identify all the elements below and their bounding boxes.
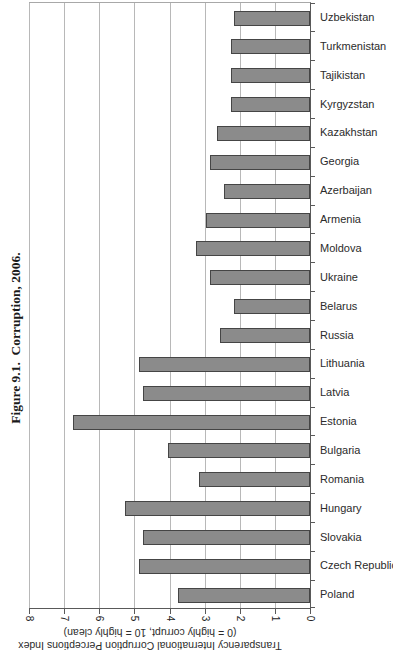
bar-georgia xyxy=(210,155,310,170)
value-tick-label-3: 3 xyxy=(199,613,210,625)
category-label-hungary: Hungary xyxy=(320,501,362,515)
category-axis-tick xyxy=(311,320,315,321)
category-label-turkmenistan: Turkmenistan xyxy=(320,39,386,53)
category-label-moldova: Moldova xyxy=(320,241,362,255)
gridline-4 xyxy=(170,3,171,609)
category-axis-tick xyxy=(311,89,315,90)
value-tick-label-4: 4 xyxy=(164,613,175,625)
bar-moldova xyxy=(196,241,310,256)
category-label-romania: Romania xyxy=(320,472,364,486)
bar-poland xyxy=(178,588,310,603)
bar-ukraine xyxy=(210,270,310,285)
bar-belarus xyxy=(234,299,310,314)
value-tick-label-8: 8 xyxy=(24,613,35,625)
bar-armenia xyxy=(206,213,310,228)
figure-page: Figure 9.1. Corruption, 2006. Transparen… xyxy=(0,0,393,659)
category-label-azerbaijan: Azerbaijan xyxy=(320,183,372,197)
category-label-tajikistan: Tajikistan xyxy=(320,68,365,82)
plot-area xyxy=(29,2,311,609)
gridline-5 xyxy=(134,3,135,609)
category-axis-tick xyxy=(311,118,315,119)
category-axis-tick xyxy=(311,147,315,148)
category-axis-tick xyxy=(311,262,315,263)
bar-russia xyxy=(220,328,310,343)
value-tick-label-5: 5 xyxy=(129,613,140,625)
value-axis-title-line1: Transparency International Corruption Pe… xyxy=(10,639,290,652)
bar-czech-republic xyxy=(139,559,310,574)
value-tick-label-7: 7 xyxy=(59,613,70,625)
category-axis-tick xyxy=(311,205,315,206)
bar-uzbekistan xyxy=(234,11,310,26)
category-axis-tick xyxy=(311,607,315,608)
category-label-georgia: Georgia xyxy=(320,154,359,168)
category-label-slovakia: Slovakia xyxy=(320,530,362,544)
category-axis-tick xyxy=(311,233,315,234)
value-axis-title: Transparency International Corruption Pe… xyxy=(10,626,290,652)
bar-slovakia xyxy=(143,530,310,545)
category-label-latvia: Latvia xyxy=(320,385,349,399)
category-axis-tick xyxy=(311,60,315,61)
category-axis-tick xyxy=(311,349,315,350)
category-axis-tick xyxy=(311,291,315,292)
bar-azerbaijan xyxy=(224,184,310,199)
category-label-lithuania: Lithuania xyxy=(320,356,365,370)
category-axis-tick xyxy=(311,522,315,523)
bar-lithuania xyxy=(139,357,310,372)
category-axis-tick xyxy=(311,378,315,379)
bar-kazakhstan xyxy=(217,126,310,141)
bar-estonia xyxy=(73,415,310,430)
category-label-poland: Poland xyxy=(320,587,354,601)
bar-tajikistan xyxy=(231,68,310,83)
category-label-belarus: Belarus xyxy=(320,299,357,313)
category-axis-tick xyxy=(311,176,315,177)
bar-hungary xyxy=(125,501,310,516)
category-axis-tick xyxy=(311,407,315,408)
bar-turkmenistan xyxy=(231,39,310,54)
category-axis-tick xyxy=(311,551,315,552)
category-label-ukraine: Ukraine xyxy=(320,270,358,284)
bar-latvia xyxy=(143,386,310,401)
category-label-czech-republic: Czech Republic xyxy=(320,558,393,572)
value-tick-label-6: 6 xyxy=(94,613,105,625)
bar-kyrgyzstan xyxy=(231,97,310,112)
category-axis-tick xyxy=(311,580,315,581)
value-tick-label-1: 1 xyxy=(269,613,280,625)
value-axis-title-line2: (0 = highly corrupt, 10 = highly clean) xyxy=(10,626,290,639)
bar-romania xyxy=(199,472,310,487)
category-axis-tick xyxy=(311,464,315,465)
category-axis-tick xyxy=(311,31,315,32)
gridline-3 xyxy=(205,3,206,609)
value-tick-label-2: 2 xyxy=(234,613,245,625)
category-axis-tick xyxy=(311,493,315,494)
category-axis-tick xyxy=(311,3,315,4)
category-label-uzbekistan: Uzbekistan xyxy=(320,10,374,24)
category-label-russia: Russia xyxy=(320,328,354,342)
figure-caption: Figure 9.1. Corruption, 2006. xyxy=(8,252,24,424)
category-label-armenia: Armenia xyxy=(320,212,361,226)
category-label-bulgaria: Bulgaria xyxy=(320,443,360,457)
category-label-estonia: Estonia xyxy=(320,414,357,428)
value-tick-label-0: 0 xyxy=(305,613,316,625)
gridline-7 xyxy=(64,3,65,609)
bar-bulgaria xyxy=(168,443,311,458)
category-axis-tick xyxy=(311,435,315,436)
gridline-8 xyxy=(29,3,30,609)
category-label-kyrgyzstan: Kyrgyzstan xyxy=(320,97,374,111)
category-label-kazakhstan: Kazakhstan xyxy=(320,125,377,139)
gridline-6 xyxy=(99,3,100,609)
